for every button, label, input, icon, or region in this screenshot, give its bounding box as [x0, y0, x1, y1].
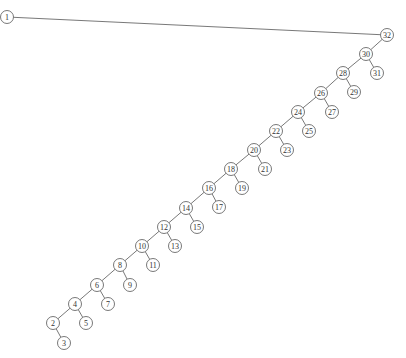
- tree-node-17: 17: [213, 201, 226, 214]
- edge-22-20: [259, 135, 271, 146]
- edge-2-3: [56, 329, 61, 338]
- tree-node-9: 9: [124, 279, 137, 292]
- edge-28-29: [346, 79, 350, 87]
- tree-node-7: 7: [102, 298, 115, 311]
- tree-node-6: 6: [91, 279, 104, 292]
- tree-node-25: 25: [303, 125, 316, 138]
- node-label: 27: [328, 108, 336, 117]
- tree-node-26: 26: [315, 87, 328, 100]
- tree-nodes: 1323031282926272425222320211819161714151…: [1, 11, 394, 350]
- edge-20-21: [257, 156, 261, 164]
- node-label: 32: [383, 31, 391, 40]
- tree-node-8: 8: [114, 259, 127, 272]
- edge-6-4: [80, 289, 92, 300]
- node-label: 30: [362, 50, 370, 59]
- binary-tree-diagram: 1323031282926272425222320211819161714151…: [0, 0, 406, 358]
- tree-node-32: 32: [381, 29, 394, 42]
- node-label: 18: [227, 165, 235, 174]
- edge-24-22: [281, 116, 293, 127]
- tree-node-10: 10: [136, 240, 149, 253]
- tree-node-21: 21: [259, 163, 272, 176]
- node-label: 2: [51, 319, 55, 328]
- node-label: 6: [95, 281, 99, 290]
- tree-node-16: 16: [203, 182, 216, 195]
- tree-node-4: 4: [69, 298, 82, 311]
- edge-8-9: [123, 271, 127, 279]
- tree-node-18: 18: [225, 163, 238, 176]
- edge-12-10: [147, 231, 159, 242]
- tree-node-27: 27: [326, 106, 339, 119]
- node-label: 31: [373, 69, 381, 78]
- edge-26-27: [324, 99, 328, 107]
- edge-10-11: [145, 252, 149, 260]
- edge-4-2: [58, 308, 70, 319]
- edge-26-24: [303, 97, 316, 108]
- node-label: 17: [215, 203, 223, 212]
- tree-node-28: 28: [337, 67, 350, 80]
- edge-1-32: [13, 17, 380, 34]
- tree-node-15: 15: [191, 221, 204, 234]
- node-label: 16: [205, 184, 213, 193]
- edge-12-13: [167, 233, 171, 241]
- tree-node-2: 2: [47, 317, 60, 330]
- node-label: 3: [62, 339, 66, 348]
- edge-6-7: [100, 291, 104, 299]
- edge-10-8: [125, 250, 137, 261]
- node-label: 15: [193, 223, 201, 232]
- node-label: 5: [84, 319, 88, 328]
- tree-node-29: 29: [348, 86, 361, 99]
- node-label: 8: [118, 261, 122, 270]
- node-label: 28: [339, 69, 347, 78]
- node-label: 21: [261, 165, 269, 174]
- tree-node-19: 19: [236, 182, 249, 195]
- tree-node-30: 30: [360, 48, 373, 61]
- node-label: 1: [5, 13, 9, 22]
- node-label: 25: [305, 127, 313, 136]
- node-label: 22: [272, 127, 280, 136]
- edge-16-14: [191, 192, 204, 203]
- node-label: 14: [182, 204, 190, 213]
- node-label: 7: [106, 300, 110, 309]
- tree-node-14: 14: [180, 202, 193, 215]
- edge-30-28: [348, 58, 361, 69]
- tree-node-20: 20: [248, 144, 261, 157]
- node-label: 13: [171, 242, 179, 251]
- tree-edges: [13, 17, 382, 337]
- tree-node-23: 23: [281, 144, 294, 157]
- edge-4-5: [78, 310, 82, 318]
- node-label: 11: [149, 261, 157, 270]
- node-label: 26: [317, 89, 325, 98]
- edge-18-16: [214, 173, 226, 184]
- edge-18-19: [234, 175, 238, 183]
- edge-20-18: [236, 154, 249, 165]
- tree-node-12: 12: [158, 221, 171, 234]
- node-label: 23: [283, 146, 291, 155]
- tree-node-1: 1: [1, 11, 14, 24]
- edge-14-12: [169, 212, 181, 223]
- node-label: 10: [138, 242, 146, 251]
- node-label: 9: [128, 281, 132, 290]
- node-label: 4: [73, 300, 77, 309]
- edge-24-25: [301, 118, 305, 126]
- node-label: 19: [238, 184, 246, 193]
- node-label: 24: [294, 108, 302, 117]
- tree-node-3: 3: [58, 337, 71, 350]
- tree-node-24: 24: [292, 106, 305, 119]
- edge-8-6: [102, 269, 115, 280]
- edge-22-23: [279, 137, 283, 145]
- edge-32-30: [371, 39, 382, 49]
- node-label: 20: [250, 146, 258, 155]
- tree-node-5: 5: [80, 317, 93, 330]
- edge-30-31: [369, 60, 373, 68]
- tree-node-22: 22: [270, 125, 283, 138]
- node-label: 12: [160, 223, 168, 232]
- node-label: 29: [350, 88, 358, 97]
- tree-node-13: 13: [169, 240, 182, 253]
- tree-node-31: 31: [371, 67, 384, 80]
- edge-16-17: [212, 194, 216, 201]
- edge-14-15: [189, 214, 193, 222]
- edge-28-26: [326, 77, 338, 88]
- tree-node-11: 11: [147, 259, 160, 272]
